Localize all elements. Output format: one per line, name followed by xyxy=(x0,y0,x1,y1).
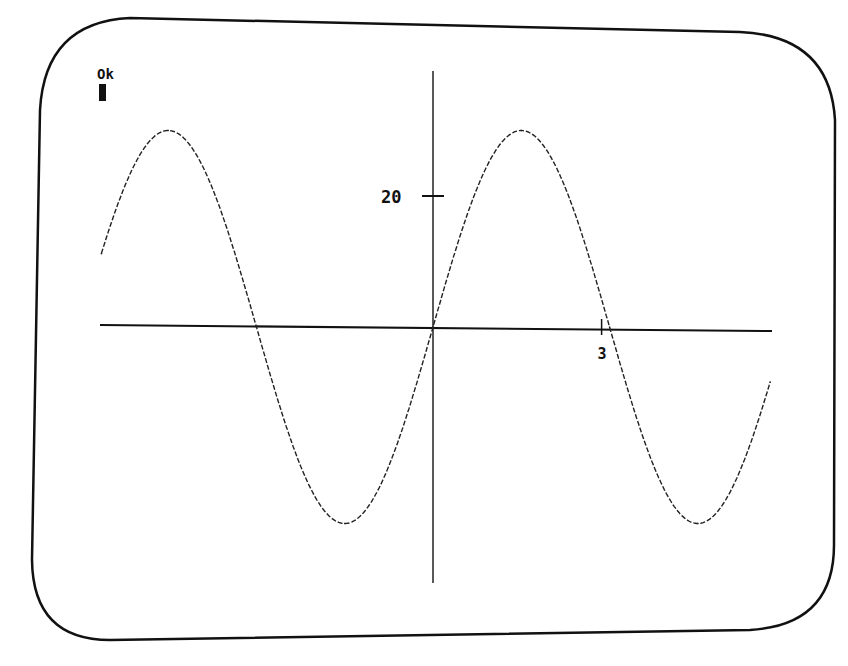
curve-point xyxy=(432,326,434,328)
curve-point xyxy=(256,326,258,328)
crt-screen: Ok 320 xyxy=(0,0,848,666)
x-axis xyxy=(100,325,772,331)
curve-point xyxy=(167,130,169,132)
curve-point xyxy=(697,523,699,525)
curve-point xyxy=(520,130,522,132)
curve-point xyxy=(344,523,346,525)
curve-point xyxy=(769,381,771,383)
curve-point xyxy=(609,326,611,328)
x-tick-label: 3 xyxy=(598,345,607,363)
curve-point xyxy=(101,253,103,255)
ok-prompt: Ok xyxy=(97,66,114,82)
y-tick-label: 20 xyxy=(381,187,401,207)
block-cursor-icon xyxy=(99,84,106,101)
